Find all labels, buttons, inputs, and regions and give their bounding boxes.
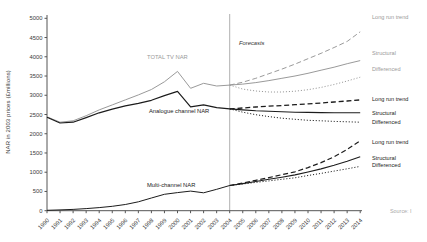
series-label-total-tv: TOTAL TV NAR xyxy=(147,54,188,60)
y-tick-label: 500 xyxy=(33,188,43,194)
actual-line-total-tv-nar xyxy=(47,71,230,122)
y-tick-label: 5000 xyxy=(30,15,43,21)
series-label-multichannel: Multi-channel NAR xyxy=(147,182,195,188)
forecast-label-analogue-long-run-trend: Long run trend xyxy=(372,96,408,102)
x-tick-label: 1996 xyxy=(115,217,128,230)
x-tick-label: 1997 xyxy=(128,217,141,230)
forecast-line-long-run-trend xyxy=(230,100,361,109)
x-tick-label: 1994 xyxy=(89,217,103,231)
x-tick-label: 2005 xyxy=(233,217,246,230)
x-tick-label: 2012 xyxy=(324,217,337,230)
x-tick-label: 2011 xyxy=(311,217,324,230)
forecast-label-multichannel-long-run-trend: Long run trend xyxy=(372,139,408,145)
x-tick-label: 1992 xyxy=(63,217,76,230)
x-tick-label: 2014 xyxy=(350,217,364,231)
x-tick-label: 2004 xyxy=(220,217,234,231)
y-tick-label: 1000 xyxy=(30,169,43,175)
x-tick-label: 2006 xyxy=(246,217,259,230)
x-tick-label: 2002 xyxy=(193,217,206,230)
x-tick-label: 1990 xyxy=(37,217,50,230)
x-tick-label: 2013 xyxy=(337,217,350,230)
x-tick-label: 2007 xyxy=(259,217,272,230)
forecast-label-multichannel-structural: Structural xyxy=(372,155,396,161)
y-axis-label: NAR in 2003 prices (£millions) xyxy=(5,52,11,172)
x-tick-label: 1998 xyxy=(141,217,154,230)
forecast-line-differenced xyxy=(230,109,361,122)
tv-nar-forecast-figure: 0500100015002000250030003500400045005000… xyxy=(0,0,427,242)
x-tick-label: 2008 xyxy=(272,217,285,230)
forecast-label-total-differenced: Differenced xyxy=(372,66,401,72)
y-tick-label: 2500 xyxy=(30,112,43,118)
forecasts-region-label: Forecasts xyxy=(239,40,264,46)
y-tick-label: 1500 xyxy=(30,150,43,156)
forecast-label-analogue-structural: Structural xyxy=(372,110,396,116)
actual-line-multi-channel-nar xyxy=(47,186,230,211)
y-tick-label: 4000 xyxy=(30,54,43,60)
forecast-label-analogue-differenced: Differenced xyxy=(372,119,401,125)
forecast-line-structural xyxy=(230,61,361,86)
x-tick-label: 1995 xyxy=(102,217,115,230)
forecast-label-total-long-run-trend: Long run trend xyxy=(372,14,408,20)
forecast-line-differenced xyxy=(230,77,361,92)
forecast-label-multichannel-differenced: Differenced xyxy=(372,162,401,168)
y-tick-label: 3500 xyxy=(30,73,43,79)
y-tick-label: 2000 xyxy=(30,131,43,137)
x-tick-label: 1999 xyxy=(154,217,167,230)
source-note: Source: I xyxy=(390,208,412,214)
y-tick-label: 0 xyxy=(39,208,42,214)
x-tick-label: 2000 xyxy=(167,217,180,230)
series-label-analogue: Analogue channel NAR xyxy=(149,108,209,114)
x-tick-label: 2010 xyxy=(298,217,311,230)
nar-forecast-chart: 0500100015002000250030003500400045005000… xyxy=(0,0,427,242)
forecast-line-structural xyxy=(230,109,361,113)
y-tick-label: 3000 xyxy=(30,92,43,98)
y-tick-label: 4500 xyxy=(30,35,43,41)
forecast-label-total-structural: Structural xyxy=(372,50,396,56)
x-tick-label: 2001 xyxy=(180,217,193,230)
x-tick-label: 1993 xyxy=(76,217,89,230)
x-tick-label: 2003 xyxy=(206,217,219,230)
x-tick-label: 2009 xyxy=(285,217,298,230)
x-tick-label: 1991 xyxy=(50,217,63,230)
